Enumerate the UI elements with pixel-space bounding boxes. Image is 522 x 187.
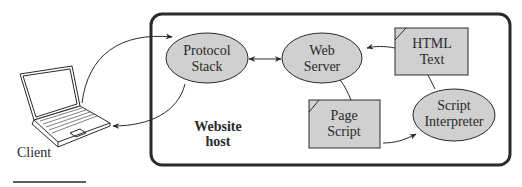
svg-text:Text: Text — [420, 52, 445, 67]
protocol-stack-node: Protocol Stack — [166, 33, 248, 83]
html-text-node: HTML Text — [395, 28, 468, 75]
arrow-html-text-to-web-server — [367, 47, 395, 49]
website-host-label-line1: Website — [194, 119, 241, 134]
laptop-icon — [20, 66, 110, 147]
svg-text:Interpreter: Interpreter — [424, 114, 483, 129]
website-host-label-line2: host — [206, 134, 231, 149]
svg-text:Protocol: Protocol — [183, 43, 231, 58]
svg-text:Script: Script — [327, 124, 361, 139]
client-label: Client — [17, 145, 51, 160]
svg-text:Web: Web — [309, 43, 334, 58]
svg-text:Script: Script — [437, 98, 471, 113]
svg-text:HTML: HTML — [412, 36, 452, 51]
web-server-node: Web Server — [282, 33, 362, 83]
line-html-text-script-interpreter — [428, 75, 435, 89]
arrow-client-to-protocol-stack — [82, 36, 172, 103]
diagram-canvas: Client Protocol Stack Web Server HTML Te… — [0, 0, 522, 187]
svg-text:Server: Server — [304, 59, 341, 74]
svg-text:Page: Page — [330, 108, 357, 123]
line-web-server-page-script — [340, 80, 351, 100]
page-script-node: Page Script — [309, 100, 380, 148]
arrow-protocol-stack-to-client — [113, 84, 185, 126]
script-interpreter-node: Script Interpreter — [413, 89, 495, 141]
arrow-page-script-to-script-interpreter — [383, 134, 416, 143]
svg-text:Stack: Stack — [191, 59, 222, 74]
